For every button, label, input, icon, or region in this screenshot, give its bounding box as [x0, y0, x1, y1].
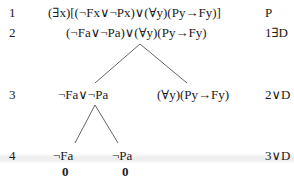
branch-line-row2-left	[95, 44, 140, 83]
justification-row3: 2∨D	[265, 88, 290, 102]
formula-row4-left: ¬Fa	[53, 149, 73, 163]
line-number-4: 4	[9, 149, 16, 163]
branch-line-row3-left	[75, 105, 95, 143]
formula-row3-left: ¬Fa∨¬Pa	[58, 88, 108, 102]
justification-row4: 3∨D	[265, 149, 290, 163]
justification-row2: 1∃D	[265, 26, 288, 40]
justification-row1: P	[265, 6, 272, 20]
branch-mark-right: 0	[122, 165, 129, 179]
line-number-3: 3	[9, 88, 16, 102]
formula-row4-right: ¬Pa	[112, 149, 132, 163]
branch-line-row3-right	[95, 105, 118, 143]
line-number-2: 2	[9, 26, 16, 40]
line-number-1: 1	[9, 6, 16, 20]
formula-row3-right: (∀y)(Py→Fy)	[157, 88, 229, 102]
formula-row2: (¬Fa∨¬Pa)∨(∀y)(Py→Fy)	[66, 26, 206, 40]
formula-row1: (∃x)[(¬Fx∨¬Px)∨(∀y)(Py→Fy)]	[48, 6, 221, 20]
branch-mark-left: 0	[62, 165, 69, 179]
branch-line-row2-right	[140, 44, 187, 83]
